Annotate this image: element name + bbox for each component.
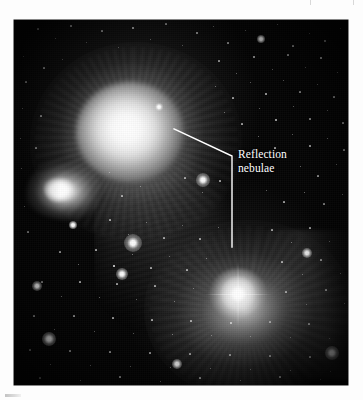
upper-halo-star bbox=[155, 103, 163, 111]
right-field-bright-star bbox=[302, 248, 312, 258]
star bbox=[37, 28, 38, 29]
star bbox=[193, 288, 194, 289]
star bbox=[304, 192, 305, 193]
star bbox=[283, 80, 284, 81]
star bbox=[130, 366, 131, 367]
star bbox=[329, 338, 330, 339]
star bbox=[218, 227, 219, 228]
star bbox=[95, 249, 96, 250]
star bbox=[266, 190, 267, 191]
star bbox=[154, 285, 155, 286]
knot-adjacent-star bbox=[69, 221, 77, 229]
star bbox=[39, 377, 40, 378]
star bbox=[279, 376, 280, 377]
bright-nebular-knot-core bbox=[44, 178, 74, 202]
star bbox=[35, 147, 36, 148]
star bbox=[250, 336, 251, 337]
star bbox=[309, 356, 310, 357]
ambient-nebulosity bbox=[14, 20, 348, 385]
star bbox=[61, 296, 62, 297]
star bbox=[219, 180, 220, 181]
lower-nebula-core bbox=[210, 268, 266, 320]
star bbox=[272, 69, 273, 70]
star bbox=[170, 367, 171, 368]
star bbox=[43, 67, 44, 68]
annotation-label-reflection-nebulae: Reflection nebulae bbox=[238, 148, 287, 175]
star bbox=[99, 297, 100, 298]
bright-nebular-knot bbox=[26, 162, 100, 220]
star bbox=[305, 67, 306, 68]
star bbox=[132, 27, 134, 29]
upper-right-bright-star bbox=[196, 173, 210, 187]
star bbox=[90, 365, 91, 366]
star bbox=[283, 201, 284, 202]
star bbox=[199, 238, 200, 239]
star bbox=[211, 335, 212, 336]
star bbox=[300, 166, 301, 167]
star bbox=[119, 376, 120, 377]
star bbox=[25, 81, 26, 82]
star bbox=[109, 351, 110, 352]
star bbox=[250, 82, 251, 83]
star bbox=[293, 106, 294, 107]
star bbox=[54, 329, 55, 330]
bottom-field-bright-star bbox=[325, 346, 339, 360]
star bbox=[250, 369, 251, 370]
star bbox=[245, 30, 246, 31]
diffraction-spike bbox=[238, 261, 239, 329]
star bbox=[59, 251, 60, 252]
star bbox=[309, 145, 310, 146]
star bbox=[265, 93, 266, 94]
lower-left-bright-star bbox=[42, 332, 56, 346]
star bbox=[169, 256, 170, 257]
star bbox=[333, 96, 334, 97]
star bbox=[343, 149, 344, 150]
star bbox=[324, 40, 325, 41]
star bbox=[128, 234, 129, 235]
star bbox=[78, 264, 79, 265]
lower-reflection-nebula bbox=[144, 220, 348, 385]
star bbox=[317, 175, 318, 176]
dust-bridge bbox=[94, 150, 244, 340]
star bbox=[330, 371, 331, 372]
star bbox=[73, 315, 74, 316]
star bbox=[109, 172, 110, 173]
star bbox=[336, 164, 337, 165]
star bbox=[269, 355, 270, 356]
star bbox=[172, 334, 173, 335]
scan-tick-mark bbox=[310, 0, 311, 5]
star bbox=[308, 323, 309, 324]
star bbox=[140, 186, 141, 187]
star bbox=[94, 331, 95, 332]
star bbox=[327, 110, 328, 111]
star bbox=[253, 56, 254, 57]
star bbox=[132, 254, 133, 255]
film-grain bbox=[14, 20, 348, 385]
cluster-bright-star bbox=[116, 268, 128, 280]
star bbox=[290, 337, 291, 338]
star bbox=[196, 32, 197, 33]
star bbox=[70, 25, 71, 26]
star bbox=[342, 194, 343, 195]
star bbox=[101, 30, 102, 31]
annotation-layer bbox=[14, 20, 348, 385]
star bbox=[299, 91, 300, 92]
star bbox=[224, 112, 225, 113]
star bbox=[258, 136, 259, 137]
star bbox=[277, 24, 278, 25]
star bbox=[340, 273, 341, 274]
star bbox=[306, 304, 307, 305]
bottom-center-bright-star bbox=[172, 359, 182, 369]
star bbox=[50, 364, 51, 365]
star bbox=[213, 26, 214, 27]
star bbox=[86, 42, 87, 43]
star bbox=[291, 242, 292, 243]
star bbox=[55, 38, 56, 39]
star bbox=[118, 47, 119, 48]
star bbox=[327, 138, 328, 139]
star bbox=[281, 261, 282, 262]
star bbox=[80, 380, 81, 381]
star bbox=[240, 380, 241, 381]
star bbox=[236, 73, 237, 74]
starfield bbox=[14, 20, 348, 385]
